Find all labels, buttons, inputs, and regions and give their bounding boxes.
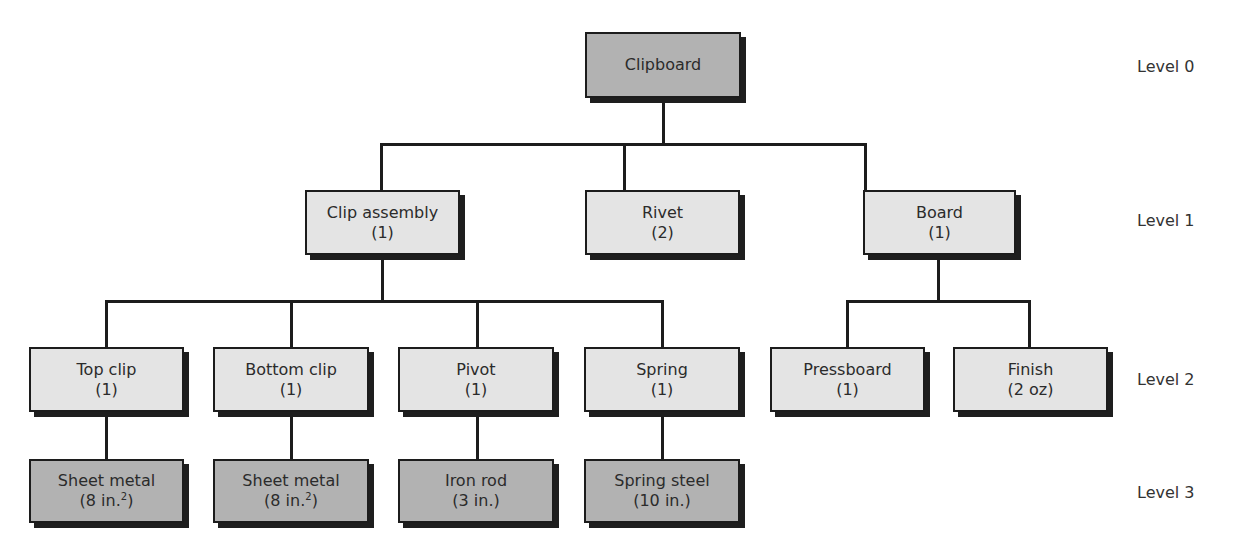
node-name: Finish (1008, 360, 1054, 380)
level-label-1: Level 1 (1137, 211, 1195, 230)
connector-line (937, 255, 940, 302)
level-label-2: Level 2 (1137, 370, 1195, 389)
node-name: Rivet (642, 203, 683, 223)
node-name: Pivot (456, 360, 495, 380)
connector-line (476, 300, 479, 348)
connector-line (661, 300, 664, 348)
node-name: Clip assembly (327, 203, 438, 223)
connector-line (381, 255, 384, 302)
connector-line (380, 143, 383, 191)
node-bottom-clip: Bottom clip (1) (213, 347, 369, 412)
level-label-3: Level 3 (1137, 483, 1195, 502)
node-pivot: Pivot (1) (398, 347, 554, 412)
node-name: Sheet metal (242, 471, 339, 491)
connector-line (1028, 300, 1031, 348)
node-name: Spring steel (614, 471, 709, 491)
node-pressboard: Pressboard (1) (770, 347, 925, 412)
node-name: Clipboard (625, 55, 701, 75)
node-qty: (1) (651, 380, 674, 400)
node-sheet-metal-1: Sheet metal (8 in.2) (29, 459, 184, 523)
connector-line (846, 300, 849, 348)
node-qty: (2) (651, 223, 674, 243)
node-qty: (10 in.) (633, 491, 691, 511)
node-finish: Finish (2 oz) (953, 347, 1108, 412)
node-name: Board (916, 203, 963, 223)
connector-line (661, 412, 664, 460)
node-top-clip: Top clip (1) (29, 347, 184, 412)
node-qty: (8 in.2) (80, 491, 134, 511)
node-sheet-metal-2: Sheet metal (8 in.2) (213, 459, 369, 523)
connector-line (105, 300, 108, 348)
node-name: Pressboard (803, 360, 891, 380)
node-qty: (1) (928, 223, 951, 243)
node-qty: (1) (836, 380, 859, 400)
connector-line (105, 412, 108, 460)
node-name: Sheet metal (58, 471, 155, 491)
node-name: Spring (636, 360, 688, 380)
node-name: Top clip (77, 360, 137, 380)
node-qty: (1) (465, 380, 488, 400)
node-rivet: Rivet (2) (585, 190, 740, 255)
level-label-0: Level 0 (1137, 57, 1195, 76)
connector-line (846, 300, 1031, 303)
connector-line (623, 143, 626, 191)
node-qty: (8 in.2) (264, 491, 318, 511)
node-qty: (1) (280, 380, 303, 400)
node-qty: (1) (371, 223, 394, 243)
node-iron-rod: Iron rod (3 in.) (398, 459, 554, 523)
node-clipboard: Clipboard (585, 32, 741, 98)
node-name: Bottom clip (245, 360, 337, 380)
connector-line (105, 300, 664, 303)
node-name: Iron rod (445, 471, 507, 491)
node-spring-steel: Spring steel (10 in.) (584, 459, 740, 523)
node-qty: (2 oz) (1008, 380, 1054, 400)
connector-line (864, 143, 867, 191)
node-spring: Spring (1) (584, 347, 740, 412)
connector-line (476, 412, 479, 460)
node-board: Board (1) (863, 190, 1016, 255)
node-clip-assembly: Clip assembly (1) (305, 190, 460, 255)
node-qty: (3 in.) (452, 491, 499, 511)
connector-line (662, 98, 665, 145)
connector-line (290, 300, 293, 348)
node-qty: (1) (95, 380, 118, 400)
connector-line (290, 412, 293, 460)
